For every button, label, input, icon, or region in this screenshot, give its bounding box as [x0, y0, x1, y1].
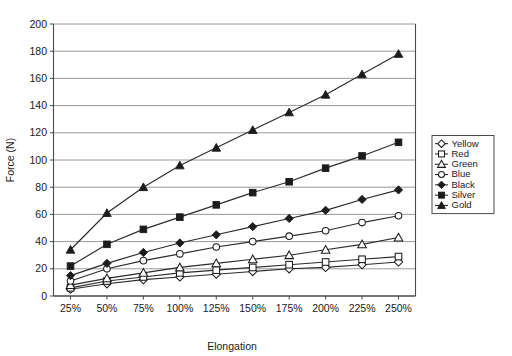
data-point-open-circle	[395, 212, 402, 219]
y-tick-label: 20	[35, 262, 47, 274]
x-tick-label: 100%	[166, 302, 193, 314]
y-tick-label: 0	[41, 290, 47, 302]
data-point-open-triangle	[394, 233, 403, 241]
data-point-filled-triangle	[285, 108, 294, 116]
data-point-filled-diamond	[321, 206, 329, 214]
series-line	[71, 54, 399, 250]
data-point-filled-diamond	[285, 214, 293, 222]
data-point-filled-square	[213, 202, 220, 209]
data-point-open-square	[249, 264, 256, 271]
x-tick-label: 225%	[349, 302, 376, 314]
data-point-open-circle	[249, 238, 256, 245]
data-point-filled-triangle	[358, 70, 367, 78]
data-point-filled-square	[67, 263, 74, 270]
legend-label: Gold	[452, 199, 472, 210]
y-tick-label: 200	[29, 18, 47, 30]
chart-canvas: 020406080100120140160180200 25%50%75%100…	[0, 0, 512, 356]
x-axis-title: Elongation	[207, 340, 257, 352]
data-point-filled-triangle	[248, 126, 257, 134]
data-point-open-square	[213, 267, 220, 274]
y-tick-label: 140	[29, 99, 47, 111]
y-axis-title: Force (N)	[4, 138, 16, 182]
x-tick-label: 75%	[133, 302, 154, 314]
data-point-open-circle	[213, 244, 220, 251]
y-tick-label: 120	[29, 126, 47, 138]
data-point-filled-square	[286, 178, 293, 185]
data-point-filled-diamond	[176, 239, 184, 247]
data-point-filled-square	[395, 139, 402, 146]
y-tick-label: 100	[29, 154, 47, 166]
y-tick-label: 60	[35, 208, 47, 220]
data-point-open-circle	[286, 233, 293, 240]
data-point-open-circle	[140, 257, 147, 264]
data-point-filled-diamond	[212, 231, 220, 239]
y-tick-label: 40	[35, 235, 47, 247]
data-point-filled-triangle	[103, 209, 112, 217]
data-point-filled-square	[359, 153, 366, 160]
data-point-open-square	[439, 151, 445, 157]
data-point-filled-square	[249, 189, 256, 196]
x-axis-tick-labels: 25%50%75%100%125%150%175%200%225%250%	[60, 302, 412, 314]
y-tick-label: 80	[35, 181, 47, 193]
y-tick-label: 180	[29, 45, 47, 57]
gridlines	[54, 24, 416, 296]
data-point-filled-square	[322, 165, 329, 172]
x-tick-label: 200%	[312, 302, 339, 314]
data-point-open-circle	[322, 227, 329, 234]
data-point-filled-diamond	[103, 259, 111, 267]
data-point-open-square	[359, 256, 366, 263]
data-point-open-circle	[439, 172, 445, 178]
data-point-filled-triangle	[212, 143, 221, 151]
data-point-filled-square	[104, 241, 111, 248]
data-point-filled-square	[439, 192, 445, 198]
data-point-filled-triangle	[176, 161, 185, 169]
series-gold	[66, 50, 403, 254]
chart-legend: YellowRedGreenBlueBlackSilverGold	[432, 136, 494, 214]
data-point-filled-diamond	[66, 271, 74, 279]
series-line	[71, 190, 399, 276]
data-point-open-square	[286, 261, 293, 268]
data-point-filled-diamond	[358, 195, 366, 203]
x-tick-label: 125%	[203, 302, 230, 314]
series-line	[71, 216, 399, 281]
data-point-filled-diamond	[249, 223, 257, 231]
data-point-filled-square	[177, 214, 184, 221]
series-yellow	[66, 258, 402, 293]
data-point-filled-diamond	[139, 248, 147, 256]
series-blue	[67, 212, 402, 284]
data-point-open-circle	[177, 251, 184, 258]
y-tick-label: 160	[29, 72, 47, 84]
x-tick-label: 250%	[385, 302, 412, 314]
y-axis-tick-labels: 020406080100120140160180200	[29, 18, 47, 302]
x-tick-label: 150%	[239, 302, 266, 314]
series-silver	[67, 139, 402, 269]
data-point-filled-triangle	[321, 90, 330, 98]
series-red	[67, 253, 402, 291]
data-series	[66, 50, 403, 294]
x-tick-label: 25%	[60, 302, 81, 314]
data-point-filled-square	[140, 226, 147, 233]
x-tick-label: 50%	[96, 302, 117, 314]
data-point-open-square	[322, 259, 329, 266]
force-elongation-chart: 020406080100120140160180200 25%50%75%100…	[0, 0, 512, 356]
data-point-open-circle	[359, 219, 366, 226]
data-point-open-square	[395, 253, 402, 260]
x-tick-label: 175%	[276, 302, 303, 314]
